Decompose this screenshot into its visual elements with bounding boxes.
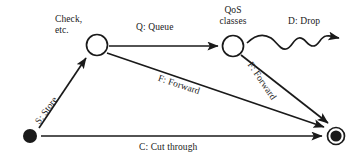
edge-drop-label: D: Drop (288, 16, 320, 26)
edge-drop-wavy-line (247, 35, 339, 49)
check-node-label-line1: Check, (55, 14, 82, 24)
check-node-label-line2: etc. (55, 25, 69, 35)
start-node-shape (23, 129, 37, 143)
qos-node-label-line1: QoS (224, 5, 241, 15)
edge-queue-label: Q: Queue (136, 22, 173, 32)
check-node-shape (87, 35, 108, 56)
edge-forward-1-line (107, 53, 324, 127)
end-node-inner-dot (330, 130, 341, 141)
check-node-label: Check,etc. (55, 14, 82, 35)
state-diagram: Check,etc. QoSclasses Q: Queue D: Drop S… (0, 0, 361, 164)
edge-cut-label: C: Cut through (139, 142, 197, 152)
qos-node-shape (223, 36, 244, 57)
qos-node-label-line2: classes (219, 16, 246, 26)
qos-node-label: QoSclasses (204, 5, 262, 26)
